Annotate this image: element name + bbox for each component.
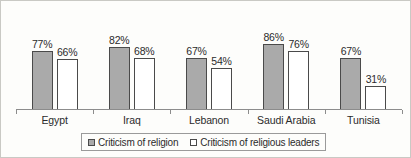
value-label: 76% xyxy=(277,38,321,50)
legend-item-criticism-of-religion[interactable]: Criticism of religion xyxy=(88,137,178,148)
bar-rect xyxy=(288,51,309,110)
bar-rect xyxy=(263,44,284,110)
bar-group-lebanon: 67% 54% xyxy=(170,1,247,110)
category-label-iraq: Iraq xyxy=(93,114,170,130)
bar-rect xyxy=(211,68,232,110)
bar-saudi-arabia-criticism-of-religious-leaders[interactable]: 76% xyxy=(288,1,309,110)
bar-tunisia-criticism-of-religious-leaders[interactable]: 31% xyxy=(365,1,386,110)
category-axis-labels: Egypt Iraq Lebanon Saudi Arabia Tunisia xyxy=(16,114,402,130)
bar-group-saudi-arabia: 86% 76% xyxy=(248,1,325,110)
axis-tick xyxy=(402,110,403,114)
bar-rect xyxy=(57,59,78,110)
bar-tunisia-criticism-of-religion[interactable]: 67% xyxy=(340,1,361,110)
bar-egypt-criticism-of-religious-leaders[interactable]: 66% xyxy=(57,1,78,110)
plot-area: 77% 66% 82% 68% xyxy=(1,1,411,113)
category-label-egypt: Egypt xyxy=(16,114,93,130)
category-axis-line xyxy=(16,109,402,110)
bar-chart-figure: 77% 66% 82% 68% xyxy=(0,0,411,158)
bar-saudi-arabia-criticism-of-religion[interactable]: 86% xyxy=(263,1,284,110)
category-label-tunisia: Tunisia xyxy=(325,114,402,130)
bar-lebanon-criticism-of-religious-leaders[interactable]: 54% xyxy=(211,1,232,110)
value-label: 31% xyxy=(354,73,398,85)
bar-group-egypt: 77% 66% xyxy=(16,1,93,110)
filled-square-icon xyxy=(88,139,95,146)
category-label-lebanon: Lebanon xyxy=(170,114,247,130)
legend-label: Criticism of religious leaders xyxy=(200,137,319,148)
value-label: 68% xyxy=(122,45,166,57)
category-label-saudi-arabia: Saudi Arabia xyxy=(248,114,325,130)
bar-rect xyxy=(32,51,53,110)
bar-iraq-criticism-of-religious-leaders[interactable]: 68% xyxy=(134,1,155,110)
bar-group-iraq: 82% 68% xyxy=(93,1,170,110)
chart-legend: Criticism of religion Criticism of relig… xyxy=(81,133,326,151)
bar-groups: 77% 66% 82% 68% xyxy=(16,1,402,110)
hollow-square-icon xyxy=(190,139,197,146)
value-label: 66% xyxy=(45,46,89,58)
bar-group-tunisia: 67% 31% xyxy=(325,1,402,110)
legend-label: Criticism of religion xyxy=(98,137,178,148)
value-label: 54% xyxy=(200,55,244,67)
bar-rect xyxy=(365,86,386,110)
legend-item-criticism-of-religious-leaders[interactable]: Criticism of religious leaders xyxy=(190,137,319,148)
bar-rect xyxy=(134,58,155,110)
